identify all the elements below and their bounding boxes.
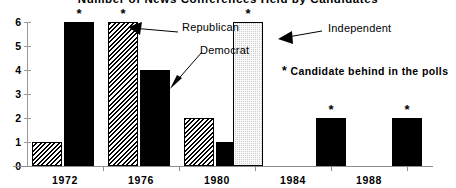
star-marker-1988-democrat: * xyxy=(404,103,409,116)
x-tick-2 xyxy=(179,166,180,171)
bar-1984-democrat xyxy=(316,118,346,166)
footnote-star-icon: * xyxy=(282,64,287,78)
x-axis-line xyxy=(13,166,433,167)
star-marker-1984-democrat: * xyxy=(328,103,333,116)
republican-leader-line xyxy=(110,24,180,38)
bar-1976-republican xyxy=(108,22,138,166)
x-axis-label-1972: 1972 xyxy=(52,174,78,186)
x-tick-5 xyxy=(407,166,408,171)
callout-democrat: Democrat xyxy=(200,44,249,56)
y-tick-2 xyxy=(24,118,31,119)
bar-1988-democrat xyxy=(392,118,422,166)
footnote-text: Candidate behind in the polls xyxy=(290,65,448,77)
x-tick-1 xyxy=(103,166,104,171)
callout-republican: Republican xyxy=(182,21,239,33)
x-tick-4 xyxy=(331,166,332,171)
y-tick-5 xyxy=(24,46,31,47)
chart-container: Number of News Conferences Held by Candi… xyxy=(0,0,456,188)
y-axis-label-2: 2 xyxy=(15,113,21,124)
x-axis-label-1984: 1984 xyxy=(280,174,306,186)
star-marker-1972-democrat: * xyxy=(76,7,81,20)
x-axis-label-1988: 1988 xyxy=(356,174,382,186)
y-axis-label-3: 3 xyxy=(15,89,21,100)
bar-1980-republican xyxy=(184,118,214,166)
footnote: * Candidate behind in the polls xyxy=(282,64,448,78)
callout-independent: Independent xyxy=(328,22,391,34)
y-tick-1 xyxy=(24,142,31,143)
y-tick-4 xyxy=(24,70,31,71)
y-axis-label-5: 5 xyxy=(15,41,21,52)
y-tick-3 xyxy=(24,94,31,95)
y-axis-label-6: 6 xyxy=(15,17,21,28)
bar-1972-republican xyxy=(32,142,62,166)
y-axis-label-4: 4 xyxy=(15,65,21,76)
y-tick-6 xyxy=(24,22,31,23)
x-tick-3 xyxy=(255,166,256,171)
star-marker-1976-republican: * xyxy=(120,7,125,20)
star-marker-1980-independent: * xyxy=(245,7,250,20)
x-axis-label-1976: 1976 xyxy=(128,174,154,186)
bar-1972-democrat xyxy=(64,22,94,166)
independent-leader-line xyxy=(262,26,324,44)
y-axis-label-1: 1 xyxy=(15,137,21,148)
x-axis-label-1980: 1980 xyxy=(204,174,230,186)
chart-title: Number of News Conferences Held by Candi… xyxy=(0,0,456,5)
